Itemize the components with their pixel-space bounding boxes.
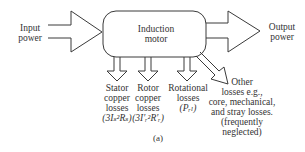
output-power-arrow xyxy=(206,11,260,52)
other-line-2: losses e.g., xyxy=(208,87,276,97)
rotational-formula: (Pᵣₗ) xyxy=(166,103,210,113)
stator-copper-losses-label: Stator copper losses (3Iₛ²Rₛ) xyxy=(100,83,134,123)
stator-line-3: losses xyxy=(100,103,134,113)
other-line-3: core, mechanical, xyxy=(208,97,276,107)
input-power-label: Input power xyxy=(10,23,50,43)
output-label-line-2: power xyxy=(258,32,305,42)
stator-loss-arrow xyxy=(107,57,127,81)
other-line-4: and stray losses. xyxy=(208,107,276,117)
rotor-loss-arrow xyxy=(138,57,158,81)
stator-line-1: Stator xyxy=(100,83,134,93)
rotor-line-2: copper xyxy=(130,93,166,103)
rotational-line-1: Rotational xyxy=(166,83,210,93)
rotor-copper-losses-label: Rotor copper losses (3I′ᵣ²R′ᵣ) xyxy=(130,83,166,123)
other-line-1: Other xyxy=(208,77,276,87)
other-losses-label: Other losses e.g., core, mechanical, and… xyxy=(208,77,276,137)
rotor-line-1: Rotor xyxy=(130,83,166,93)
induction-motor-label: Induction motor xyxy=(120,24,192,44)
figure-caption: (a) xyxy=(148,133,168,143)
rotational-line-2: losses xyxy=(166,93,210,103)
input-label-line-1: Input xyxy=(10,23,50,33)
motor-label-line-1: Induction xyxy=(120,24,192,34)
input-label-line-2: power xyxy=(10,33,50,43)
motor-label-line-2: motor xyxy=(120,34,192,44)
input-power-arrow xyxy=(48,11,102,52)
rotational-loss-arrow xyxy=(177,57,197,81)
output-label-line-1: Output xyxy=(258,22,305,32)
output-power-label: Output power xyxy=(258,22,305,42)
rotor-formula: (3I′ᵣ²R′ᵣ) xyxy=(130,113,166,123)
stator-line-2: copper xyxy=(100,93,134,103)
other-line-6: neglected) xyxy=(208,127,276,137)
stator-formula: (3Iₛ²Rₛ) xyxy=(100,113,134,123)
rotor-line-3: losses xyxy=(130,103,166,113)
rotational-losses-label: Rotational losses (Pᵣₗ) xyxy=(166,83,210,113)
other-line-5: (frequently xyxy=(208,117,276,127)
